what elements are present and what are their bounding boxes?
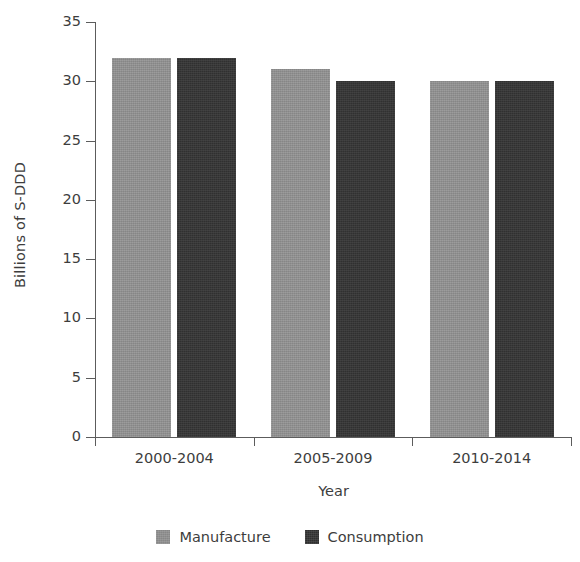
bar-consumption-2005-2009: [336, 81, 395, 437]
legend-swatch-icon: [305, 530, 319, 544]
legend-item-manufacture[interactable]: Manufacture: [156, 528, 270, 546]
y-axis-tick-mark: [86, 141, 95, 142]
x-axis-line: [95, 437, 572, 438]
bar-manufacture-2010-2014: [430, 81, 489, 437]
x-axis-tick-mark: [571, 437, 572, 446]
y-axis-title-text: Billions of S-DDD: [12, 162, 28, 288]
y-axis-tick-mark: [86, 378, 95, 379]
x-axis-tick-mark: [412, 437, 413, 446]
legend-item-consumption[interactable]: Consumption: [305, 528, 424, 546]
bar-consumption-2000-2004: [177, 58, 236, 437]
legend-swatch-icon: [156, 530, 170, 544]
y-axis-tick: 5: [0, 378, 95, 379]
y-axis-tick-mark: [86, 200, 95, 201]
y-axis-tick: 25: [0, 141, 95, 142]
x-axis-category-label: 2005-2009: [254, 449, 413, 468]
y-axis-tick-mark: [86, 22, 95, 23]
y-axis-tick: 0: [0, 437, 95, 438]
y-axis-tick-label: 30: [63, 71, 81, 90]
legend: ManufactureConsumption: [0, 528, 580, 546]
bar-manufacture-2000-2004: [112, 58, 171, 437]
y-axis-tick-mark: [86, 81, 95, 82]
y-axis-tick-label: 35: [63, 12, 81, 31]
y-axis-tick: 35: [0, 22, 95, 23]
y-axis-tick-label: 25: [63, 131, 81, 150]
bar-consumption-2010-2014: [495, 81, 554, 437]
x-axis-category-label: 2000-2004: [95, 449, 254, 468]
y-axis-tick: 10: [0, 318, 95, 319]
y-axis-tick-mark: [86, 259, 95, 260]
x-axis-title: Year: [95, 483, 572, 499]
plot-area: [95, 22, 572, 437]
y-axis-title: Billions of S-DDD: [6, 0, 34, 450]
y-axis-tick: 30: [0, 81, 95, 82]
x-axis-category-label: 2010-2014: [412, 449, 571, 468]
y-axis-tick-mark: [86, 318, 95, 319]
x-axis-tick-mark: [254, 437, 255, 446]
bar-manufacture-2005-2009: [271, 69, 330, 437]
legend-label: Manufacture: [179, 528, 270, 546]
x-axis-tick-mark: [95, 437, 96, 446]
y-axis-tick: 20: [0, 200, 95, 201]
y-axis-tick-label: 10: [63, 308, 81, 327]
y-axis-tick-label: 20: [63, 190, 81, 209]
y-axis-tick-label: 15: [63, 249, 81, 268]
legend-label: Consumption: [328, 528, 424, 546]
y-axis-tick-label: 0: [72, 427, 81, 446]
bar-chart: Billions of S-DDD 05101520253035 2000-20…: [0, 0, 580, 562]
y-axis-tick: 15: [0, 259, 95, 260]
y-axis-tick-label: 5: [72, 368, 81, 387]
y-axis-tick-mark: [86, 437, 95, 438]
